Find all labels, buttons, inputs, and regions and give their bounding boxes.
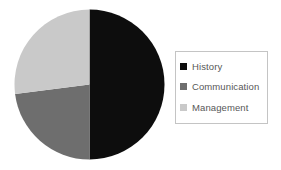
legend-label-management: Management: [192, 102, 248, 113]
legend-item-management[interactable]: Management: [180, 101, 248, 113]
pie-slice-history[interactable]: [90, 10, 165, 160]
pie-chart-plot-area: [14, 9, 165, 160]
legend-item-communication[interactable]: Communication: [180, 80, 259, 92]
pie-slice-management[interactable]: [14, 10, 89, 94]
legend-label-history: History: [192, 61, 222, 72]
pie-slice-communication[interactable]: [15, 85, 89, 160]
pie-chart-figure: History Communication Management: [0, 0, 281, 170]
legend-label-communication: Communication: [192, 81, 259, 92]
legend-swatch-history: [180, 63, 187, 70]
legend-swatch-management: [180, 104, 187, 111]
pie-chart-svg: [14, 9, 165, 160]
legend-item-history[interactable]: History: [180, 60, 222, 72]
chart-legend: History Communication Management: [175, 51, 268, 124]
legend-swatch-communication: [180, 83, 187, 90]
pie-slice-group: [14, 10, 164, 160]
